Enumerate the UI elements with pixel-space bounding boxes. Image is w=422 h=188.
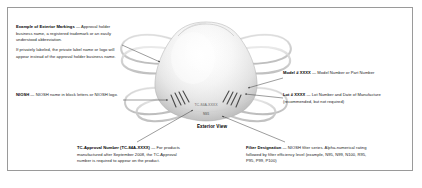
callout-filter-lead: Filter Designation xyxy=(246,145,281,150)
callout-model-body: Model Number or Part Number xyxy=(317,70,374,75)
callout-filter-para: Filter Designation — NIOSH filter series… xyxy=(246,145,370,165)
callout-markings-body2: If privately labeled, the private label … xyxy=(16,47,120,60)
callout-lot-lead: Lot # XXXX xyxy=(283,92,305,97)
callout-tc-lead: TC-Approval Number (TC-84A-XXXX) xyxy=(77,145,150,150)
callout-tc-para: TC-Approval Number (TC-84A-XXXX) — For p… xyxy=(77,145,185,165)
callout-markings-lead: Example of Exterior Markings xyxy=(16,24,75,29)
callout-niosh: NIOSH — NIOSH name in block letters or N… xyxy=(16,92,120,99)
niosh-respirator-markings-figure: TC-84A-XXXX N95 Example of Exterior Mark… xyxy=(0,0,422,188)
callout-lot-number: Lot # XXXX — Lot Number and Date of Manu… xyxy=(283,92,409,105)
callout-tc-approval-number: TC-Approval Number (TC-84A-XXXX) — For p… xyxy=(77,145,185,165)
callout-filter-designation: Filter Designation — NIOSH filter series… xyxy=(246,145,370,165)
callout-model-number: Model # XXXX — Model Number or Part Numb… xyxy=(283,70,409,77)
callout-niosh-para: NIOSH — NIOSH name in block letters or N… xyxy=(16,92,120,99)
callout-lot-para: Lot # XXXX — Lot Number and Date of Manu… xyxy=(283,92,409,105)
callout-niosh-lead: NIOSH xyxy=(16,92,29,97)
callout-niosh-body: NIOSH name in block letters or NIOSH log… xyxy=(36,92,118,97)
figure-caption: Exterior View xyxy=(172,124,252,129)
callout-exterior-markings: Example of Exterior Markings — Approval … xyxy=(16,24,120,60)
callout-markings-para-1: Example of Exterior Markings — Approval … xyxy=(16,24,120,44)
callout-model-lead: Model # XXXX xyxy=(283,70,311,75)
callout-model-para: Model # XXXX — Model Number or Part Numb… xyxy=(283,70,409,77)
